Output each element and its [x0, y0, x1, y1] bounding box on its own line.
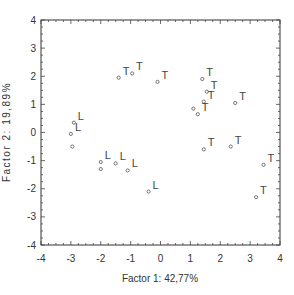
point-label: T: [268, 152, 275, 164]
point-marker: [99, 160, 102, 163]
point-label: T: [208, 136, 215, 148]
data-point-t: T: [229, 134, 242, 149]
point-label: L: [105, 149, 111, 161]
data-point-t: T: [196, 101, 209, 116]
point-label: L: [75, 121, 81, 133]
x-tick-label: 4: [277, 253, 283, 264]
y-tick-label: 4: [30, 15, 36, 26]
data-point-t: T: [131, 60, 144, 75]
point-label: T: [208, 89, 215, 101]
point-marker: [99, 167, 102, 170]
point-marker: [229, 145, 232, 148]
data-point-l: [99, 167, 102, 170]
point-marker: [147, 190, 150, 193]
point-label: T: [206, 66, 213, 78]
x-tick-label: -4: [37, 253, 46, 264]
y-tick-label: -1: [27, 155, 36, 166]
point-label: L: [132, 157, 138, 169]
data-point-t: T: [156, 69, 169, 84]
point-marker: [201, 77, 204, 80]
y-tick-label: 0: [30, 127, 36, 138]
point-marker: [255, 196, 258, 199]
y-tick-label: -2: [27, 183, 36, 194]
y-axis-title: Factor 2: 19,89%: [1, 82, 12, 182]
x-tick-label: -2: [96, 253, 105, 264]
x-tick-label: 1: [188, 253, 194, 264]
data-point-t: T: [117, 65, 130, 80]
y-tick-label: 2: [30, 71, 36, 82]
data-point-t: T: [202, 136, 215, 151]
data-point-t: T: [234, 90, 247, 105]
y-tick-label: -4: [27, 240, 36, 251]
data-points: LLLLLLTTTTTTTTTTTT: [69, 60, 274, 198]
data-point-l: L: [99, 149, 111, 164]
data-point-t: T: [255, 184, 268, 199]
x-tick-label: -3: [66, 253, 75, 264]
x-tick-label: 3: [247, 253, 253, 264]
data-point-l: L: [147, 179, 159, 194]
point-label: T: [239, 90, 246, 102]
data-point-l: [71, 145, 74, 148]
point-marker: [196, 113, 199, 116]
data-point-t: T: [262, 152, 275, 167]
y-tick-label: 1: [30, 99, 36, 110]
point-marker: [71, 145, 74, 148]
x-tick-label: -1: [126, 253, 135, 264]
data-point-l: L: [114, 150, 126, 165]
data-point-l: L: [69, 121, 81, 136]
point-marker: [114, 162, 117, 165]
y-tick-label: -3: [27, 211, 36, 222]
x-tick-label: 0: [158, 253, 164, 264]
y-axis-tick-labels: 43210-1-2-3-4: [27, 15, 36, 251]
point-label: T: [162, 69, 169, 81]
point-marker: [262, 163, 265, 166]
point-label: T: [202, 101, 209, 113]
point-label: T: [123, 65, 130, 77]
point-label: L: [153, 179, 159, 191]
y-tick-label: 3: [30, 43, 36, 54]
point-label: L: [120, 150, 126, 162]
point-marker: [117, 76, 120, 79]
x-tick-label: 2: [217, 253, 223, 264]
scatter-chart: -4-3-2-101234 43210-1-2-3-4 LLLLLLTTTTTT…: [0, 0, 294, 295]
point-label: T: [235, 134, 242, 146]
point-label: T: [136, 60, 143, 72]
data-point-t: [192, 107, 195, 110]
point-marker: [131, 72, 134, 75]
point-marker: [126, 169, 129, 172]
point-label: T: [260, 184, 267, 196]
point-marker: [202, 148, 205, 151]
point-marker: [234, 101, 237, 104]
point-marker: [192, 107, 195, 110]
point-label: L: [78, 110, 84, 122]
x-axis-title: Factor 1: 42,77%: [122, 273, 198, 284]
x-axis-tick-labels: -4-3-2-101234: [37, 253, 284, 264]
point-marker: [69, 132, 72, 135]
data-point-l: L: [126, 157, 138, 172]
point-marker: [156, 80, 159, 83]
